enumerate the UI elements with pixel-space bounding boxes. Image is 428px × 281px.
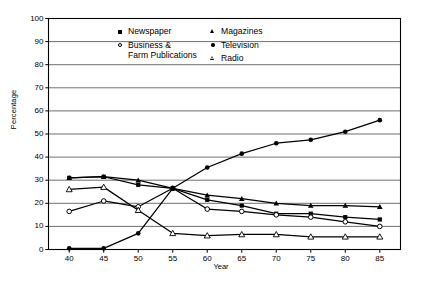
legend-item[interactable]: Television [210,40,263,51]
legend-marker [117,40,128,51]
series-business-farm-publications [67,186,382,229]
legend-item[interactable]: Newspaper [117,26,197,37]
open-circle-icon [118,43,122,47]
legend-label-line2: Farm Publications [128,50,197,61]
legend-label: Radio [221,53,243,64]
legend-label-line1: Newspaper [128,26,171,36]
legend-label: Newspaper [128,26,171,37]
legend-marker [210,26,221,37]
legend-marker [210,40,221,51]
line-chart: Percentage Year 0102030405060708090100 4… [0,0,428,281]
legend-label: Magazines [221,26,263,37]
legend-item[interactable]: Magazines [210,26,263,37]
filled-triangle-icon [210,29,214,33]
legend-item[interactable]: Radio [210,53,263,64]
legend-label-line1: Radio [221,53,243,63]
legend-label-line1: Business & [128,40,171,50]
series-television [67,118,382,251]
open-triangle-icon [210,56,214,60]
legend-label: Television [221,40,259,51]
legend-label-line1: Magazines [221,26,263,36]
series-radio [66,184,383,239]
legend-label-line1: Television [221,40,259,50]
legend-item[interactable]: Business &Farm Publications [117,40,197,61]
filled-square-icon [118,30,122,34]
legend-column-1: NewspaperBusiness &Farm Publications [117,26,197,63]
legend-column-2: MagazinesTelevisionRadio [210,26,263,67]
legend-marker [210,53,221,64]
legend-marker [117,26,128,37]
series-layer [66,118,383,251]
series-newspaper [67,175,382,222]
filled-circle-icon [211,43,215,47]
legend-label: Business &Farm Publications [128,40,197,61]
